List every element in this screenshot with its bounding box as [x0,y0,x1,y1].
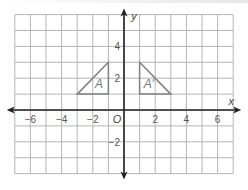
x-tick-label: 6 [215,114,221,125]
triangle-A-label: A [94,77,103,91]
y-tick-label: 2 [114,73,120,84]
x-tick-label: −4 [56,114,68,125]
x-axis-label: x [227,95,234,107]
triangle-A-prime-label: A′ [143,77,155,91]
x-tick-label: 2 [152,114,158,125]
y-tick-label: −2 [109,137,121,148]
coordinate-plane: −6−4−224642−2OxyAA′ [0,0,248,190]
x-tick-label: 4 [184,114,190,125]
y-tick-label: 4 [114,41,120,52]
origin-label: O [113,113,122,125]
x-tick-label: −6 [25,114,37,125]
x-tick-label: −2 [87,114,99,125]
y-axis-label: y [130,10,138,22]
